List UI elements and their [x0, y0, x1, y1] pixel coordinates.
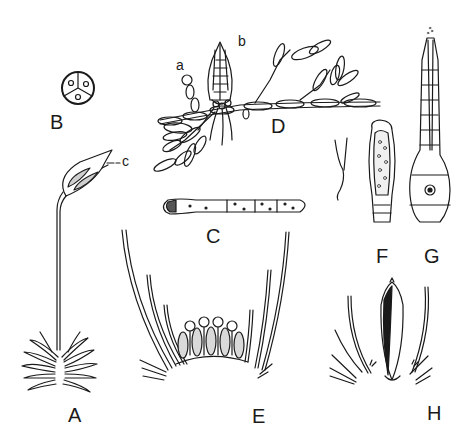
panel-h-archegonial-head: [330, 278, 432, 384]
panel-a-moss-plant: [22, 150, 120, 392]
panel-b-tetrad: [62, 72, 94, 104]
panel-label-e: E: [252, 406, 265, 426]
panel-label-b: B: [50, 112, 63, 132]
panel-label-f: F: [376, 246, 388, 266]
panel-label-h: H: [427, 403, 441, 423]
panel-label-c: C: [206, 226, 220, 246]
panel-f-antheridium: [369, 120, 395, 222]
panel-g-archegonium: [410, 27, 450, 222]
sublabel-b: b: [238, 34, 246, 48]
botanical-plate: [0, 0, 470, 447]
panel-label-g: G: [424, 246, 440, 266]
panel-label-a: A: [68, 405, 81, 425]
antherozoid-sketch: [335, 138, 347, 200]
panel-label-d: D: [271, 116, 285, 136]
sublabel-c: c: [122, 154, 129, 168]
panel-c-germinating-filament: [163, 199, 305, 214]
panel-e-antheridial-head: [122, 230, 289, 380]
sublabel-a: a: [176, 58, 184, 72]
